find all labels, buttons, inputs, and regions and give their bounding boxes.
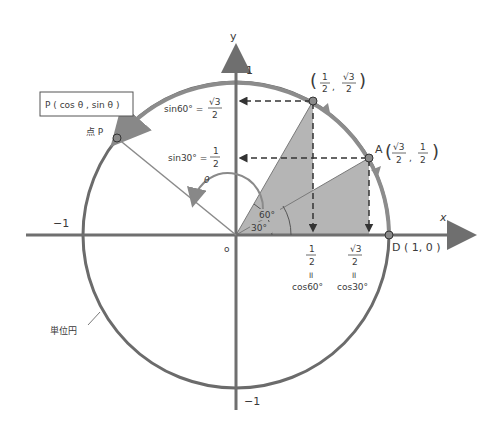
angle-60-label: 60° (259, 210, 275, 220)
p-definition-text: P ( cos θ , sin θ ) (45, 100, 119, 110)
svg-text:√3: √3 (343, 72, 354, 82)
point-a-coords: A ( √3 2 , 1 2 ) (375, 141, 439, 165)
x-axis-label: x (439, 211, 447, 224)
svg-text:cos60°: cos60° (292, 282, 323, 292)
svg-text:॥: ॥ (308, 270, 313, 280)
unit-circle-label: 単位円 (50, 325, 77, 336)
angle-30-label: 30° (251, 223, 267, 233)
svg-text:,: , (409, 153, 412, 163)
point-60[interactable] (309, 97, 317, 105)
svg-text:1: 1 (322, 72, 328, 82)
svg-text:2: 2 (396, 155, 402, 165)
tick-y-neg: −1 (244, 395, 260, 408)
sin60-label: sin60° = √3 2 (164, 97, 222, 120)
svg-text:√3: √3 (350, 244, 361, 254)
svg-text:): ) (432, 141, 439, 162)
svg-text:√3: √3 (393, 142, 404, 152)
svg-text:2: 2 (346, 84, 352, 94)
unit-circle-diagram: y x o 1 −1 −1 ( 1 2 , √3 2 ) A ( √3 2 , … (0, 0, 485, 435)
svg-text:,: , (332, 82, 335, 92)
point-p[interactable] (113, 134, 121, 142)
svg-text:1: 1 (213, 146, 219, 156)
origin-label: o (224, 244, 230, 254)
point-60-coords: ( 1 2 , √3 2 ) (310, 70, 366, 94)
svg-text:2: 2 (212, 110, 218, 120)
point-d-label: D ( 1, 0 ) (392, 241, 441, 254)
svg-text:√3: √3 (209, 97, 220, 107)
svg-text:2: 2 (352, 257, 358, 267)
sin30-label: sin30° = 1 2 (168, 146, 220, 169)
y-axis-label: y (230, 30, 237, 43)
svg-text:2: 2 (213, 159, 219, 169)
theta-label: θ (204, 175, 210, 185)
svg-text:1: 1 (309, 244, 315, 254)
shaded-triangles (236, 101, 369, 235)
tick-y-pos: 1 (246, 64, 253, 77)
svg-text:): ) (359, 70, 366, 91)
svg-text:(: ( (385, 141, 392, 162)
cos30-label: √3 2 ॥ cos30° (337, 244, 368, 292)
unit-circle-callout (88, 312, 100, 325)
svg-text:2: 2 (420, 155, 426, 165)
point-a[interactable] (365, 154, 373, 162)
svg-text:(: ( (310, 70, 317, 91)
svg-text:2: 2 (309, 257, 315, 267)
svg-text:A: A (375, 143, 383, 156)
svg-text:॥: ॥ (351, 270, 356, 280)
point-d[interactable] (385, 231, 393, 239)
svg-text:1: 1 (420, 142, 426, 152)
point-p-label: 点 P (86, 127, 104, 137)
svg-text:2: 2 (322, 84, 328, 94)
cos60-label: 1 2 ॥ cos60° (292, 244, 323, 292)
tick-x-neg: −1 (53, 217, 69, 230)
svg-text:cos30°: cos30° (337, 282, 368, 292)
svg-text:sin60° =: sin60° = (164, 104, 203, 114)
svg-text:sin30° =: sin30° = (168, 153, 207, 163)
